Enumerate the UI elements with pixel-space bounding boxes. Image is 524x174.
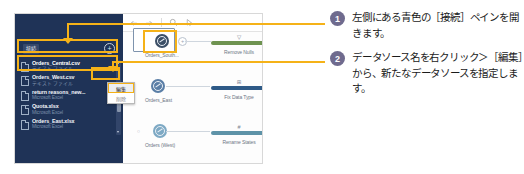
rename-icon: # [237, 124, 240, 130]
undo-icon[interactable] [129, 18, 138, 27]
flow-row: Orders_South... + ▽ Remove Nulls [123, 32, 262, 78]
document-icon [21, 76, 29, 86]
flow-row: Orders_East ⊞ Fix Data Type [123, 77, 262, 123]
flow-node-label: Orders_East [145, 97, 172, 103]
flow-step-rename-states[interactable]: # Rename States [211, 124, 262, 145]
annotation-badge: 2 [330, 51, 345, 66]
flow-step-label: Rename States [222, 139, 255, 145]
file-name: Quota.xlsx [32, 104, 63, 109]
connections-pane-header: 接続 + [19, 41, 119, 56]
annotation-item-2: 2 データソース名を右クリック＞［編集］から、新たなデータソースを指定します。 [330, 50, 524, 97]
document-icon [21, 105, 29, 115]
file-name: Orders_Central.csv [32, 61, 80, 66]
file-type: テキスト ファイル [32, 82, 74, 87]
application-screenshot: 接続 + Orders_Central.csv テキスト ファイル Orders… [14, 13, 263, 164]
flow-connector [166, 86, 210, 87]
flow-connector [185, 41, 211, 42]
flow-canvas: Orders_South... + ▽ Remove Nulls Orders_… [123, 14, 262, 164]
filter-icon: ▽ [237, 34, 241, 40]
flow-connector [166, 131, 210, 132]
flow-node-orders-south[interactable]: Orders_South... [145, 34, 179, 58]
flow-step-label: Remove Nulls [224, 49, 254, 55]
flow-step-fix-data-type[interactable]: ⊞ Fix Data Type [211, 79, 262, 100]
step-bar[interactable] [211, 41, 262, 45]
list-item[interactable]: Orders_West.csv テキスト ファイル [19, 74, 117, 89]
flow-step-label: Fix Data Type [224, 94, 253, 100]
flow-step-remove-nulls[interactable]: ▽ Remove Nulls [211, 34, 262, 55]
step-bar[interactable] [211, 131, 262, 135]
data-source-node-icon[interactable] [155, 34, 169, 48]
annotation-item-1: 1 左側にある青色の［接続］ペインを開きます。 [330, 10, 524, 41]
annotation-badge: 1 [330, 11, 345, 26]
file-name: Orders_West.csv [32, 75, 74, 80]
flow-node-orders-east[interactable]: Orders_East [145, 79, 172, 103]
data-source-node-icon[interactable] [151, 79, 165, 93]
flow-node-label: Orders_South... [145, 52, 179, 58]
annotation-list: 1 左側にある青色の［接続］ペインを開きます。 2 データソース名を右クリック＞… [330, 10, 524, 106]
database-glyph-icon [155, 126, 165, 136]
flow-row: ○ Orders (West) # Rename States [123, 122, 262, 164]
list-item[interactable]: Quota.xlsx Microsoft Excel [19, 103, 117, 118]
data-source-node-icon[interactable] [153, 124, 167, 138]
database-glyph-icon [153, 81, 163, 91]
document-icon [21, 91, 29, 101]
file-name: return reasons_new... [32, 90, 85, 95]
list-item[interactable]: Orders_Central.csv テキスト ファイル [19, 59, 117, 74]
scroll-down-icon[interactable] [117, 131, 119, 133]
database-glyph-icon [157, 36, 167, 46]
list-item[interactable]: Orders_East.xlsx Microsoft Excel [19, 117, 117, 132]
context-menu: 編集 削除 [107, 82, 135, 104]
annotation-text: 左側にある青色の［接続］ペインを開きます。 [352, 10, 524, 41]
file-name: Orders_East.xlsx [32, 119, 74, 124]
search-icon[interactable] [169, 18, 178, 27]
add-connection-button[interactable]: + [104, 43, 115, 54]
scroll-up-icon[interactable] [117, 62, 119, 64]
list-item[interactable]: return reasons_new... Microsoft Excel [19, 88, 117, 103]
document-icon [21, 62, 29, 72]
document-icon [21, 120, 29, 130]
pointer-icon[interactable] [185, 18, 194, 27]
annotation-text: データソース名を右クリック＞［編集］から、新たなデータソースを指定します。 [352, 50, 524, 97]
file-type: テキスト ファイル [32, 67, 80, 72]
toolbar-divider [161, 18, 162, 27]
redo-icon[interactable] [145, 18, 154, 27]
context-menu-item-delete[interactable]: 削除 [108, 93, 134, 103]
connections-pane-title: 接続 [23, 44, 39, 54]
node-status-dot-icon: ○ [137, 128, 140, 134]
file-type: Microsoft Excel [32, 125, 74, 130]
flow-node-orders-west[interactable]: Orders (West) [145, 124, 175, 148]
data-type-icon: ⊞ [237, 79, 242, 85]
file-type: Microsoft Excel [32, 96, 85, 101]
context-menu-item-edit[interactable]: 編集 [108, 83, 134, 93]
step-bar[interactable] [211, 86, 262, 90]
file-type: Microsoft Excel [32, 111, 63, 116]
flow-node-label: Orders (West) [145, 142, 175, 148]
connection-file-list: Orders_Central.csv テキスト ファイル Orders_West… [19, 59, 117, 132]
